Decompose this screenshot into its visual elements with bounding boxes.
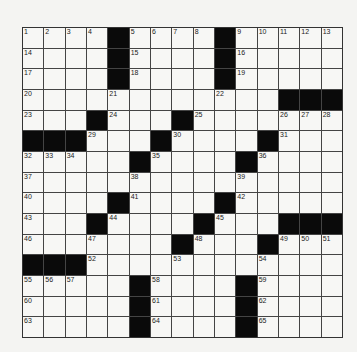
grid-cell[interactable]: 12 [300,28,320,48]
grid-cell[interactable]: 44 [108,214,128,234]
grid-cell[interactable]: 14 [23,49,43,69]
grid-cell[interactable] [66,173,86,193]
grid-cell[interactable]: 53 [172,255,192,275]
grid-cell[interactable] [172,214,192,234]
grid-cell[interactable] [108,255,128,275]
grid-cell[interactable]: 24 [108,111,128,131]
grid-cell[interactable] [300,69,320,89]
grid-cell[interactable] [172,90,192,110]
grid-cell[interactable]: 18 [130,69,150,89]
grid-cell[interactable]: 21 [108,90,128,110]
grid-cell[interactable]: 9 [236,28,256,48]
grid-cell[interactable] [172,173,192,193]
grid-cell[interactable] [279,193,299,213]
grid-cell[interactable] [66,235,86,255]
grid-cell[interactable] [172,69,192,89]
grid-cell[interactable] [66,214,86,234]
grid-cell[interactable]: 28 [322,111,342,131]
grid-cell[interactable] [194,131,214,151]
grid-cell[interactable] [108,235,128,255]
grid-cell[interactable] [44,111,64,131]
grid-cell[interactable]: 43 [23,214,43,234]
grid-cell[interactable] [44,297,64,317]
grid-cell[interactable]: 50 [300,235,320,255]
grid-cell[interactable] [322,276,342,296]
grid-cell[interactable] [66,317,86,337]
grid-cell[interactable] [108,131,128,151]
grid-cell[interactable] [215,131,235,151]
grid-cell[interactable] [130,214,150,234]
grid-cell[interactable] [66,49,86,69]
grid-cell[interactable] [300,49,320,69]
grid-cell[interactable]: 57 [66,276,86,296]
grid-cell[interactable] [258,90,278,110]
grid-cell[interactable]: 39 [236,173,256,193]
grid-cell[interactable] [87,297,107,317]
grid-cell[interactable]: 27 [300,111,320,131]
grid-cell[interactable]: 54 [258,255,278,275]
grid-cell[interactable] [215,235,235,255]
grid-cell[interactable] [87,90,107,110]
grid-cell[interactable] [66,193,86,213]
grid-cell[interactable] [322,193,342,213]
grid-cell[interactable] [108,276,128,296]
grid-cell[interactable] [108,297,128,317]
grid-cell[interactable]: 47 [87,235,107,255]
grid-cell[interactable] [44,49,64,69]
grid-cell[interactable]: 65 [258,317,278,337]
grid-cell[interactable] [87,193,107,213]
grid-cell[interactable]: 2 [44,28,64,48]
grid-cell[interactable] [151,235,171,255]
grid-cell[interactable] [194,152,214,172]
grid-cell[interactable]: 6 [151,28,171,48]
grid-cell[interactable] [87,49,107,69]
grid-cell[interactable]: 56 [44,276,64,296]
grid-cell[interactable] [108,152,128,172]
grid-cell[interactable] [322,173,342,193]
grid-cell[interactable] [194,69,214,89]
grid-cell[interactable] [151,90,171,110]
grid-cell[interactable] [66,297,86,317]
grid-cell[interactable]: 30 [172,131,192,151]
grid-cell[interactable]: 40 [23,193,43,213]
grid-cell[interactable] [44,235,64,255]
grid-cell[interactable] [194,276,214,296]
grid-cell[interactable] [279,69,299,89]
grid-cell[interactable]: 19 [236,69,256,89]
grid-cell[interactable] [279,152,299,172]
grid-cell[interactable] [151,255,171,275]
grid-cell[interactable] [87,69,107,89]
grid-cell[interactable]: 13 [322,28,342,48]
grid-cell[interactable] [279,173,299,193]
grid-cell[interactable] [322,131,342,151]
grid-cell[interactable] [215,255,235,275]
grid-cell[interactable]: 15 [130,49,150,69]
grid-cell[interactable] [87,152,107,172]
grid-cell[interactable] [108,317,128,337]
grid-cell[interactable] [215,276,235,296]
grid-cell[interactable] [172,49,192,69]
grid-cell[interactable] [258,111,278,131]
grid-cell[interactable]: 41 [130,193,150,213]
grid-cell[interactable]: 29 [87,131,107,151]
grid-cell[interactable]: 38 [130,173,150,193]
grid-cell[interactable]: 7 [172,28,192,48]
grid-cell[interactable]: 31 [279,131,299,151]
grid-cell[interactable]: 52 [87,255,107,275]
grid-cell[interactable] [172,193,192,213]
grid-cell[interactable] [300,317,320,337]
grid-cell[interactable]: 63 [23,317,43,337]
grid-cell[interactable] [215,173,235,193]
grid-cell[interactable]: 33 [44,152,64,172]
grid-cell[interactable] [151,49,171,69]
grid-cell[interactable]: 42 [236,193,256,213]
grid-cell[interactable]: 64 [151,317,171,337]
grid-cell[interactable] [258,69,278,89]
grid-cell[interactable] [300,276,320,296]
grid-cell[interactable]: 10 [258,28,278,48]
grid-cell[interactable] [151,214,171,234]
grid-cell[interactable] [322,297,342,317]
grid-cell[interactable] [151,111,171,131]
grid-cell[interactable] [279,317,299,337]
grid-cell[interactable]: 55 [23,276,43,296]
